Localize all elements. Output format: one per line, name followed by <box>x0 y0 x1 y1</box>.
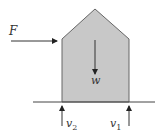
free-body-diagram: F w v2 v1 <box>0 0 163 137</box>
force-f-label: F <box>8 24 18 38</box>
reaction-v1-subscript: 1 <box>116 123 121 132</box>
reaction-v1-label: v1 <box>110 117 121 132</box>
weight-label: w <box>91 74 101 87</box>
reaction-v2-label: v2 <box>66 117 77 132</box>
reaction-v2-subscript: 2 <box>72 123 77 132</box>
